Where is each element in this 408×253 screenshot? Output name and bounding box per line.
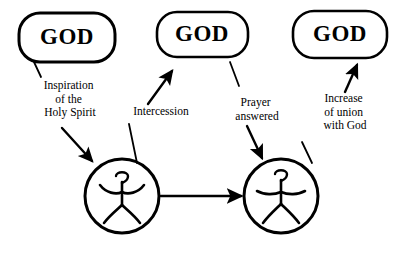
edge-inspiration-stub bbox=[34, 62, 41, 77]
edge-inspiration-label-line-3: Holy Spirit bbox=[44, 106, 96, 119]
edge-increase-union-label-line-3: with God bbox=[323, 119, 366, 131]
god-node-2: GOD bbox=[157, 12, 248, 57]
edge-prayer-answered-arrow bbox=[247, 126, 262, 158]
edge-intercession-arrow bbox=[148, 71, 172, 104]
edge-intercession-label: Intercession bbox=[133, 105, 189, 117]
edge-inspiration-label-line-1: Inspiration bbox=[44, 79, 94, 92]
god-node-2-label: GOD bbox=[175, 21, 229, 46]
prayer-cycle-diagram: GOD GOD GOD bbox=[0, 0, 408, 253]
god-node-1: GOD bbox=[19, 13, 115, 62]
edge-increase-union: Increase of union with God bbox=[302, 65, 367, 163]
edge-inspiration-label-line-2: of the bbox=[55, 93, 82, 105]
edge-increase-union-arrow bbox=[345, 65, 357, 92]
edge-prayer-answered: Prayer answered bbox=[230, 62, 279, 158]
god-node-3: GOD bbox=[293, 11, 387, 58]
edge-increase-union-label: Increase of union with God bbox=[323, 92, 366, 131]
edge-increase-union-stub bbox=[302, 142, 312, 163]
god-node-3-label: GOD bbox=[313, 21, 367, 46]
god-node-1-label: GOD bbox=[40, 24, 94, 49]
edge-intercession-label-line-1: Intercession bbox=[133, 105, 189, 117]
edge-prayer-answered-label: Prayer answered bbox=[235, 96, 279, 122]
edge-prayer-answered-label-line-2: answered bbox=[235, 110, 279, 122]
diagram-canvas: GOD GOD GOD bbox=[0, 0, 408, 253]
edge-increase-union-label-line-2: of union bbox=[324, 106, 363, 118]
edge-inspiration: Inspiration of the Holy Spirit bbox=[34, 62, 97, 161]
person-node-1 bbox=[85, 159, 159, 233]
edge-intercession: Intercession bbox=[129, 71, 189, 163]
person-node-2 bbox=[244, 159, 318, 233]
edge-prayer-answered-label-line-1: Prayer bbox=[241, 96, 271, 109]
edge-inspiration-label: Inspiration of the Holy Spirit bbox=[44, 79, 97, 119]
edge-inspiration-arrow bbox=[62, 128, 92, 161]
edge-intercession-stub bbox=[129, 124, 137, 163]
edge-prayer-answered-stub bbox=[230, 62, 239, 86]
edge-increase-union-label-line-1: Increase bbox=[324, 92, 362, 104]
